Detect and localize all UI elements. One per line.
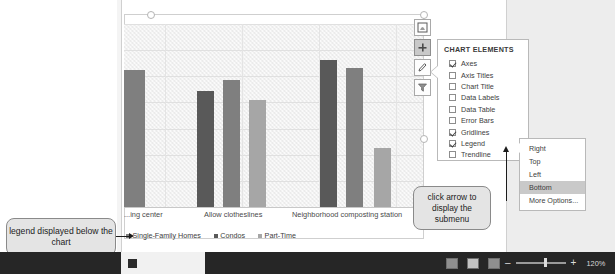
print-layout-icon[interactable] (467, 258, 479, 269)
chart-plot-area[interactable] (124, 24, 423, 208)
legend-swatch-icon (258, 234, 262, 238)
gridline (124, 24, 423, 25)
chart-element-gridlines[interactable]: Gridlines (444, 126, 528, 137)
status-bar-marker (128, 259, 137, 268)
checkbox-icon[interactable] (449, 151, 456, 158)
category-axis-line (124, 207, 423, 208)
bar-c3-s1[interactable] (346, 68, 363, 208)
chart-element-label: Gridlines (461, 128, 489, 137)
chart-element-label: Trendline (461, 150, 491, 159)
chart-element-label: Chart Title (461, 82, 494, 91)
legend-item-3[interactable]: Part-Time (258, 231, 296, 240)
submenu-item-top[interactable]: Top (520, 155, 585, 168)
chart-styles-icon[interactable] (414, 59, 431, 76)
chart-element-error-bars[interactable]: Error Bars (444, 115, 528, 126)
callout-leader-arrow (506, 151, 507, 201)
category-divider (242, 24, 243, 208)
chart-element-label: Legend (461, 139, 485, 148)
chart-layout-icon[interactable] (414, 19, 431, 36)
submenu-item-bottom[interactable]: Bottom (520, 181, 585, 194)
word-document-window: ...ing center Allow clotheslines Neighbo… (0, 0, 615, 274)
chart-tool-buttons (414, 19, 431, 96)
legend-label-1: Single-Family Homes (133, 231, 201, 240)
callout-leader-legend (116, 236, 130, 237)
chart-filters-icon[interactable] (414, 79, 431, 96)
gridline (124, 76, 423, 77)
cat-label-3: Neighborhood composting station (292, 210, 402, 219)
bar-c2-s3[interactable] (249, 100, 266, 208)
pane-pointer-icon (431, 66, 438, 78)
chart-element-axes[interactable]: Axes (444, 58, 528, 69)
checkbox-icon[interactable] (449, 117, 456, 124)
chart-element-data-table[interactable]: Data Table (444, 104, 528, 115)
submenu-item-more-options[interactable]: More Options... (520, 194, 585, 207)
chart-elements-title: CHART ELEMENTS (444, 45, 528, 54)
legend-item-2[interactable]: Condos (214, 231, 245, 240)
submenu-pointer-icon (514, 143, 520, 153)
bar-c3-s2[interactable] (320, 60, 337, 208)
submenu-item-right[interactable]: Right (520, 142, 585, 155)
zoom-slider-thumb[interactable] (544, 258, 547, 267)
chart-resize-handle-right[interactable] (420, 135, 428, 143)
legend-label-2: Condos (220, 231, 245, 240)
checkbox-icon[interactable] (449, 140, 456, 147)
chart-element-label: Data Table (461, 105, 495, 114)
zoom-in-button[interactable]: + (571, 259, 577, 267)
zoom-control: – + 120% (505, 259, 605, 268)
chart-element-label: Error Bars (461, 116, 494, 125)
gridline (124, 129, 423, 130)
chart-element-label: Axis Titles (461, 71, 493, 80)
chart-resize-handle-top-right[interactable] (420, 11, 428, 19)
read-mode-icon[interactable] (446, 258, 458, 269)
legend-label-3: Part-Time (265, 231, 296, 240)
chart-element-label: Data Labels (461, 93, 499, 102)
checkbox-icon[interactable] (449, 129, 456, 136)
gridline (124, 102, 423, 103)
checkbox-icon[interactable] (449, 94, 456, 101)
checkbox-icon[interactable] (449, 106, 456, 113)
bar-c2-s1[interactable] (223, 80, 240, 208)
chart-resize-handle-top[interactable] (147, 11, 155, 19)
chart-legend[interactable]: Single-Family Homes Condos Part-Time (126, 231, 424, 240)
callout-legend-below-chart: legend displayed below the chart (6, 218, 116, 256)
submenu-item-left[interactable]: Left (520, 168, 585, 181)
cat-label-1: ...ing center (124, 210, 163, 219)
web-layout-icon[interactable] (488, 258, 500, 269)
checkbox-icon[interactable] (449, 60, 456, 67)
zoom-percentage[interactable]: 120% (586, 259, 605, 268)
zoom-out-button[interactable]: – (505, 259, 511, 267)
zoom-slider[interactable] (516, 262, 566, 263)
status-bar: – + 120% (0, 252, 615, 274)
legend-swatch-icon (214, 234, 218, 238)
bar-c1-s1[interactable] (124, 70, 145, 208)
legend-position-submenu: Right Top Left Bottom More Options... (519, 138, 586, 211)
view-mode-buttons (446, 258, 500, 269)
cat-label-2: Allow clotheslines (204, 210, 262, 219)
chart-element-data-labels[interactable]: Data Labels (444, 92, 528, 103)
category-axis-labels: ...ing center Allow clotheslines Neighbo… (124, 210, 423, 224)
bar-c2-s2[interactable] (197, 91, 214, 208)
chart-elements-icon[interactable] (414, 39, 431, 56)
category-divider (396, 24, 397, 208)
checkbox-icon[interactable] (449, 83, 456, 90)
category-divider (165, 24, 166, 208)
chart-element-chart-title[interactable]: Chart Title (444, 81, 528, 92)
bar-c3-s3[interactable] (374, 148, 391, 208)
callout-click-arrow: click arrow to display the submenu (413, 186, 491, 230)
checkbox-icon[interactable] (449, 72, 456, 79)
legend-item-1[interactable]: Single-Family Homes (126, 231, 201, 240)
chart-element-label: Axes (461, 59, 477, 68)
chart-element-axis-titles[interactable]: Axis Titles (444, 69, 528, 80)
gridline (124, 50, 423, 51)
